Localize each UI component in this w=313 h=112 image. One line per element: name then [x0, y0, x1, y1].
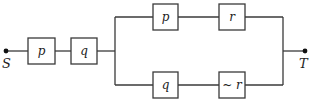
switch-label: p — [38, 44, 46, 58]
switch-bottom-not-r: ~ r — [219, 72, 245, 98]
switch-bottom-q: q — [153, 72, 178, 98]
switch-top-p: p — [153, 4, 178, 30]
switch-label: q — [162, 78, 170, 92]
switch-series-p: p — [28, 38, 55, 64]
terminal-end: T — [299, 49, 309, 71]
terminal-dot-icon — [4, 49, 9, 54]
switch-label: p — [162, 10, 170, 24]
switch-label: q — [80, 44, 88, 58]
switch-series-q: q — [71, 38, 97, 64]
terminal-end-label: T — [299, 56, 309, 71]
terminal-start: S — [2, 49, 11, 71]
circuit-diagram: S T p q p r q ~ r — [0, 0, 313, 112]
switch-top-r: r — [219, 4, 245, 30]
terminal-start-label: S — [2, 56, 11, 71]
terminal-dot-icon — [303, 49, 308, 54]
switch-label: ~ r — [222, 78, 243, 92]
